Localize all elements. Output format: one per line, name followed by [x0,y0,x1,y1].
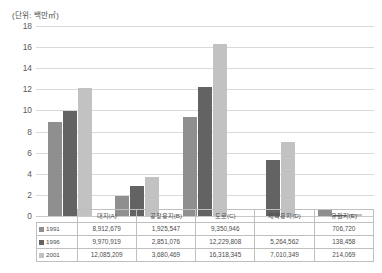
data-table: 대지(A)공장용지(B)도로(C)체육용지(D)유원지(E) 19918,912… [36,209,374,262]
table-cell: 16,318,345 [196,249,255,262]
bar-group-2 [104,26,172,216]
y-axis-tick: 12 [23,85,32,93]
bar [213,44,227,216]
column-header-4: 체육용지(D) [255,210,314,223]
y-axis-tick: 10 [23,106,32,114]
legend-year-label: 1991 [46,226,60,232]
table-cell: 12,085,209 [77,249,136,262]
plot-area: 181614121086420 [0,26,382,216]
unit-caption: (단위: 백만㎡) [12,9,59,20]
table-header-row: 대지(A)공장용지(B)도로(C)체육용지(D)유원지(E) [37,210,374,223]
legend-year-label: 1996 [46,239,60,245]
bar [48,122,62,216]
legend-year-label: 2001 [46,252,60,258]
y-axis-tick: 4 [27,170,32,178]
table-cell: 5,264,562 [255,236,314,249]
legend-swatch-icon [39,227,44,232]
table-corner-cell [37,210,78,223]
y-axis-tick: 14 [23,64,32,72]
legend-row-label: 2001 [37,249,78,262]
chart-container: (단위: 백만㎡) 181614121086420 대지(A)공장용지(B)도로… [0,0,382,273]
table-cell: 1,925,547 [136,223,195,236]
y-axis-tick: 2 [27,191,32,199]
table-cell [255,223,314,236]
legend-row-label: 1996 [37,236,78,249]
bar [63,111,77,216]
column-header-3: 도로(C) [196,210,255,223]
bar [183,117,197,216]
table-cell: 7,010,349 [255,249,314,262]
column-header-2: 공장용지(B) [136,210,195,223]
table-cell: 706,720 [314,223,373,236]
table-cell: 2,851,076 [136,236,195,249]
table-cell: 8,912,679 [77,223,136,236]
bar-group-5 [306,26,374,216]
bar-group-3 [171,26,239,216]
table-body: 19918,912,6791,925,5479,350,946706,72019… [37,223,374,262]
table-row: 19969,970,9192,851,07612,229,8085,264,56… [37,236,374,249]
table-cell: 3,680,469 [136,249,195,262]
bar-group-4 [239,26,307,216]
bars-layer [36,26,374,216]
bar [198,87,212,216]
y-axis-tick: 18 [23,22,32,30]
table-cell: 214,069 [314,249,373,262]
bar [78,88,92,216]
column-header-1: 대지(A) [77,210,136,223]
table-cell: 12,229,808 [196,236,255,249]
bar [281,142,295,216]
legend-swatch-icon [39,253,44,258]
table-cell: 138,458 [314,236,373,249]
table-cell: 9,350,946 [196,223,255,236]
bar [266,160,280,216]
y-axis: 181614121086420 [0,26,36,216]
table-row: 19918,912,6791,925,5479,350,946706,720 [37,223,374,236]
legend-row-label: 1991 [37,223,78,236]
y-axis-tick: 0 [27,212,32,220]
legend-swatch-icon [39,240,44,245]
table-cell: 9,970,919 [77,236,136,249]
y-axis-tick: 6 [27,148,32,156]
table-header: 대지(A)공장용지(B)도로(C)체육용지(D)유원지(E) [37,210,374,223]
bar-group-1 [36,26,104,216]
table-row: 200112,085,2093,680,46916,318,3457,010,3… [37,249,374,262]
y-axis-tick: 8 [27,127,32,135]
y-axis-tick: 16 [23,43,32,51]
column-header-5: 유원지(E) [314,210,373,223]
